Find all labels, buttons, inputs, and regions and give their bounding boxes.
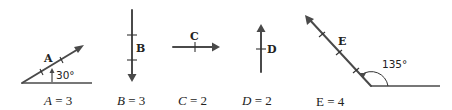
vector-d-arrowhead-icon xyxy=(257,24,266,32)
vector-c-label: C xyxy=(190,30,199,43)
vector-d-label: D xyxy=(267,43,277,56)
vector-e: E 135° xyxy=(305,15,440,86)
magnitude-labels: A = 3 B = 3 C = 2 D = 2 E = 4 xyxy=(43,93,345,109)
magnitude-d: D = 2 xyxy=(241,93,272,108)
vector-a-angle-arrow-icon xyxy=(50,68,55,73)
magnitude-e: E = 4 xyxy=(316,94,345,109)
vector-a-angle-label: 30° xyxy=(56,69,75,81)
magnitude-a: A = 3 xyxy=(43,93,72,108)
vector-d: D xyxy=(256,24,277,72)
vector-b-arrowhead-icon xyxy=(128,74,137,82)
vector-e-angle-arrow-icon xyxy=(359,73,366,79)
vector-c: C xyxy=(173,30,220,52)
vector-diagram: A 30° B C D E 135° A = 3 B = xyxy=(0,0,452,110)
vector-a-label: A xyxy=(43,52,53,65)
vector-c-arrowhead-icon xyxy=(212,43,220,52)
vector-a: A 30° xyxy=(22,45,92,83)
vector-b-label: B xyxy=(136,42,145,55)
magnitude-b: B = 3 xyxy=(117,93,145,108)
magnitude-c: C = 2 xyxy=(178,93,207,108)
vector-b: B xyxy=(127,10,145,82)
vector-e-angle-label: 135° xyxy=(382,58,407,70)
vector-e-label: E xyxy=(338,35,346,48)
